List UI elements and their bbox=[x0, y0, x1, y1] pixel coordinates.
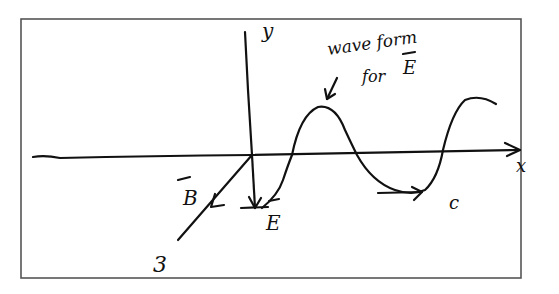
e-vector-label: E bbox=[265, 211, 281, 235]
y-axis-label: y bbox=[261, 19, 274, 43]
b-vector-label: B bbox=[182, 186, 198, 210]
x-axis-label: x bbox=[516, 155, 526, 176]
annotation-line3: E bbox=[402, 57, 416, 78]
e-vector bbox=[252, 155, 255, 208]
em-wave-diagram: y x 3 B E c wave form for E bbox=[0, 0, 559, 294]
y-axis bbox=[245, 32, 252, 155]
annotation-line2: for bbox=[361, 67, 387, 86]
annotation-overarrow bbox=[403, 52, 415, 54]
z-axis-label: 3 bbox=[153, 252, 167, 277]
propagation-arrow bbox=[378, 192, 422, 193]
b-vector-overarrow bbox=[178, 177, 190, 180]
x-axis bbox=[33, 150, 520, 158]
propagation-label: c bbox=[449, 192, 459, 213]
diagram-border bbox=[21, 19, 521, 278]
